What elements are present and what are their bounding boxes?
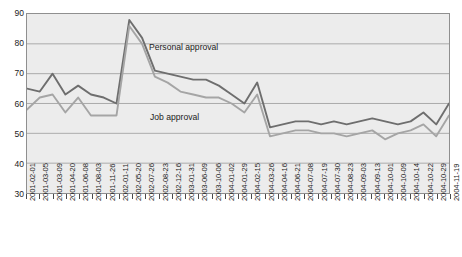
x-tick-label: 2002-05-20 bbox=[135, 163, 143, 201]
x-tick-label: 2004-10-22 bbox=[427, 163, 435, 201]
x-tick-label: 2004-10-14 bbox=[413, 163, 421, 201]
x-tick-label: 2004-06-21 bbox=[294, 163, 302, 201]
x-tick-label: 2002-08-23 bbox=[162, 163, 170, 201]
x-tick-label: 2003-06-09 bbox=[201, 163, 209, 201]
x-tick bbox=[291, 194, 292, 199]
y-tick-label: 60 bbox=[2, 100, 24, 109]
x-tick-label: 2001-06-08 bbox=[82, 163, 90, 201]
x-tick bbox=[318, 194, 319, 199]
x-tick bbox=[450, 194, 451, 199]
x-tick-label: 2002-01-11 bbox=[122, 164, 130, 201]
gridlines bbox=[27, 44, 449, 163]
x-tick-label: 2004-07-30 bbox=[334, 163, 342, 201]
x-tick bbox=[66, 194, 67, 199]
y-tick-label: 30 bbox=[2, 190, 24, 199]
x-tick bbox=[53, 194, 54, 199]
x-tick-label: 2004-10-29 bbox=[440, 163, 448, 201]
y-axis: 30405060708090 bbox=[0, 0, 24, 200]
x-tick-label: 2004-03-26 bbox=[268, 163, 276, 201]
x-tick bbox=[225, 194, 226, 199]
y-tick-label: 50 bbox=[2, 130, 24, 139]
x-tick bbox=[119, 194, 120, 199]
y-tick-label: 90 bbox=[2, 9, 24, 18]
x-tick bbox=[132, 194, 133, 199]
x-tick bbox=[371, 194, 372, 199]
x-tick-label: 2004-04-16 bbox=[281, 163, 289, 201]
x-tick-label: 2002-07-26 bbox=[148, 163, 156, 201]
x-tick-label: 2004-08-23 bbox=[347, 163, 355, 201]
x-tick bbox=[79, 194, 80, 199]
x-tick bbox=[185, 194, 186, 199]
x-tick-label: 2003-01-31 bbox=[188, 163, 196, 201]
x-tick-label: 2003-10-06 bbox=[215, 163, 223, 201]
x-tick bbox=[344, 194, 345, 199]
x-tick-label: 2004-09-13 bbox=[374, 163, 382, 201]
x-tick-label: 2004-01-29 bbox=[241, 163, 249, 201]
x-tick bbox=[437, 194, 438, 199]
x-tick-label: 2001-02-01 bbox=[29, 163, 37, 201]
x-tick bbox=[278, 194, 279, 199]
x-tick bbox=[331, 194, 332, 199]
x-tick bbox=[26, 194, 27, 199]
series-label-job-approval: Job approval bbox=[150, 113, 199, 122]
x-tick bbox=[212, 194, 213, 199]
x-tick-label: 2004-10-01 bbox=[387, 163, 395, 201]
x-tick-label: 2004-10-09 bbox=[400, 163, 408, 201]
x-tick-label: 2004-11-19 bbox=[453, 164, 461, 201]
x-tick-label: 2004-01-02 bbox=[228, 163, 236, 201]
approval-rating-line-chart: 30405060708090 2001-02-012001-03-052001-… bbox=[0, 0, 462, 257]
x-tick-label: 2004-09-03 bbox=[360, 163, 368, 201]
x-tick-label: 2001-04-20 bbox=[69, 163, 77, 201]
y-tick-label: 70 bbox=[2, 69, 24, 78]
x-tick-label: 2002-12-16 bbox=[175, 163, 183, 201]
x-tick bbox=[397, 194, 398, 199]
x-tick-label: 2004-07-08 bbox=[307, 163, 315, 201]
series-lines bbox=[27, 20, 449, 139]
x-tick bbox=[384, 194, 385, 199]
y-tick-label: 40 bbox=[2, 160, 24, 169]
x-axis: 2001-02-012001-03-052001-03-092001-04-20… bbox=[26, 194, 452, 257]
x-tick-label: 2004-07-19 bbox=[321, 163, 329, 201]
x-tick-label: 2001-03-05 bbox=[42, 163, 50, 201]
x-tick bbox=[424, 194, 425, 199]
x-tick bbox=[172, 194, 173, 199]
x-tick-label: 2001-11-26 bbox=[109, 164, 117, 201]
series-label-personal-approval: Personal approval bbox=[149, 43, 218, 52]
x-tick bbox=[106, 194, 107, 199]
x-tick bbox=[238, 194, 239, 199]
x-tick-label: 2001-08-03 bbox=[95, 163, 103, 201]
x-tick bbox=[265, 194, 266, 199]
x-tick bbox=[159, 194, 160, 199]
x-tick-label: 2004-02-15 bbox=[254, 163, 262, 201]
x-tick-label: 2001-03-09 bbox=[56, 163, 64, 201]
y-tick-label: 80 bbox=[2, 39, 24, 48]
